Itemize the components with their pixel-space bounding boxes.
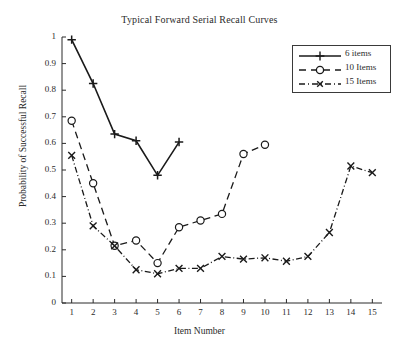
y-tick-label-4: 0.4 bbox=[30, 191, 56, 201]
x-tick-label-10: 11 bbox=[277, 307, 295, 317]
chart-legend: 6 items 10 Items 15 Items bbox=[292, 45, 391, 93]
x-tick-label-3: 4 bbox=[127, 307, 145, 317]
x-tick-label-2: 3 bbox=[106, 307, 124, 317]
x-tick-label-5: 6 bbox=[170, 307, 188, 317]
x-tick-label-7: 8 bbox=[213, 307, 231, 317]
x-tick-label-14: 15 bbox=[363, 307, 381, 317]
series-1 bbox=[68, 117, 268, 267]
x-tick-label-13: 14 bbox=[342, 307, 360, 317]
x-tick-label-12: 13 bbox=[320, 307, 338, 317]
y-tick-label-9: 0.9 bbox=[30, 58, 56, 68]
y-tick-label-0: 0 bbox=[30, 297, 56, 307]
legend-sample-dashed-circle-icon bbox=[297, 63, 343, 77]
x-tick-label-9: 10 bbox=[256, 307, 274, 317]
y-tick-label-10: 1 bbox=[30, 31, 56, 41]
y-tick-label-8: 0.8 bbox=[30, 84, 56, 94]
y-tick-label-6: 0.6 bbox=[30, 137, 56, 147]
x-tick-label-0: 1 bbox=[63, 307, 81, 317]
y-tick-label-7: 0.7 bbox=[30, 111, 56, 121]
legend-sample-solid-plus-icon bbox=[297, 49, 343, 63]
y-axis-label: Probability of Successful Recall bbox=[18, 46, 28, 246]
legend-sample-dashdot-cross-icon bbox=[297, 77, 343, 91]
x-tick-label-1: 2 bbox=[84, 307, 102, 317]
legend-item-6-items: 6 items bbox=[293, 49, 392, 63]
legend-label-0: 6 items bbox=[345, 48, 371, 58]
x-tick-label-4: 5 bbox=[149, 307, 167, 317]
y-tick-label-3: 0.3 bbox=[30, 217, 56, 227]
legend-label-1: 10 Items bbox=[345, 62, 376, 72]
legend-item-10-items: 10 Items bbox=[293, 63, 392, 77]
chart-title: Typical Forward Serial Recall Curves bbox=[0, 14, 399, 25]
y-tick-label-1: 0.1 bbox=[30, 270, 56, 280]
x-axis-label: Item Number bbox=[0, 326, 399, 336]
legend-label-2: 15 Items bbox=[345, 76, 376, 86]
y-tick-label-5: 0.5 bbox=[30, 164, 56, 174]
y-tick-label-2: 0.2 bbox=[30, 244, 56, 254]
chart-figure: Typical Forward Serial Recall Curves Pro… bbox=[0, 0, 399, 348]
x-tick-label-8: 9 bbox=[234, 307, 252, 317]
x-tick-label-11: 12 bbox=[299, 307, 317, 317]
x-tick-label-6: 7 bbox=[192, 307, 210, 317]
legend-item-15-items: 15 Items bbox=[293, 77, 392, 91]
